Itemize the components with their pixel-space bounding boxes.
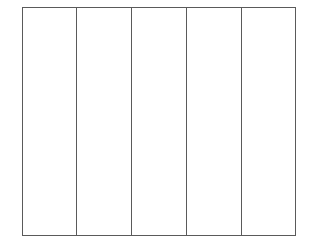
figure-canvas [0,0,312,249]
table-column-3 [132,8,187,235]
table-column-5 [242,8,295,235]
table-frame [22,7,296,236]
table-column-2 [77,8,132,235]
table-column-4 [187,8,242,235]
table-column-1 [23,8,77,235]
